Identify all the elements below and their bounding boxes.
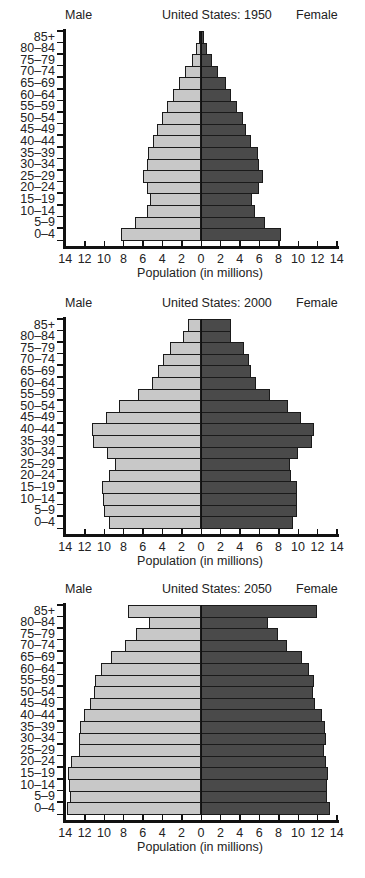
y-tick <box>57 528 64 530</box>
y-tick <box>57 100 64 102</box>
x-tick-label: 14 <box>55 826 75 840</box>
x-tick <box>298 241 300 246</box>
male-bar <box>109 516 201 529</box>
chart-title: United States: 1950 <box>162 8 272 22</box>
x-tick <box>317 815 319 820</box>
y-tick <box>57 457 64 459</box>
x-tick-label: 6 <box>249 540 269 554</box>
y-tick <box>57 801 64 803</box>
age-group-label: 0–4 <box>34 516 55 528</box>
y-tick <box>57 341 64 343</box>
y-tick <box>57 604 64 606</box>
x-tick <box>201 529 203 534</box>
y-tick <box>57 240 64 242</box>
y-tick <box>57 181 64 183</box>
x-tick <box>239 815 241 820</box>
x-axis <box>63 534 339 537</box>
pyramid-chart-2000: MaleUnited States: 2000Female85+80–8475–… <box>0 296 365 586</box>
male-bar <box>121 228 201 241</box>
x-tick-label: 10 <box>94 540 114 554</box>
x-tick <box>142 241 144 246</box>
x-tick-label: 0 <box>191 826 211 840</box>
y-tick <box>57 732 64 734</box>
x-tick-label: 4 <box>230 252 250 266</box>
x-tick <box>298 815 300 820</box>
x-tick <box>162 241 164 246</box>
x-tick <box>220 241 222 246</box>
y-tick <box>57 708 64 710</box>
y-tick <box>57 376 64 378</box>
x-tick <box>84 241 86 246</box>
y-tick <box>57 755 64 757</box>
y-tick <box>57 778 64 780</box>
x-tick <box>259 529 261 534</box>
x-tick-label: 4 <box>152 252 172 266</box>
x-tick-label: 14 <box>327 826 347 840</box>
y-tick <box>57 434 64 436</box>
y-tick <box>57 697 64 699</box>
x-tick <box>317 529 319 534</box>
x-tick-label: 0 <box>191 252 211 266</box>
x-tick-label: 2 <box>210 826 230 840</box>
x-tick <box>104 529 106 534</box>
y-tick <box>57 318 64 320</box>
x-tick <box>162 529 164 534</box>
x-axis <box>63 246 339 249</box>
x-tick <box>65 815 67 820</box>
x-tick-label: 8 <box>269 252 289 266</box>
pyramid-chart-1950: MaleUnited States: 1950Female85+80–8475–… <box>0 8 365 298</box>
x-tick <box>104 241 106 246</box>
x-tick-label: 2 <box>172 540 192 554</box>
x-tick-label: 10 <box>94 826 114 840</box>
x-tick-label: 10 <box>288 540 308 554</box>
x-tick-label: 6 <box>133 826 153 840</box>
x-tick <box>65 241 67 246</box>
male-label: Male <box>65 8 92 22</box>
x-tick <box>259 241 261 246</box>
x-tick-label: 4 <box>152 826 172 840</box>
age-group-label: 0–4 <box>34 228 55 240</box>
y-tick <box>57 330 64 332</box>
y-tick <box>57 469 64 471</box>
x-tick <box>278 529 280 534</box>
x-tick <box>162 815 164 820</box>
x-tick <box>220 529 222 534</box>
y-tick <box>57 111 64 113</box>
female-label: Female <box>296 582 338 596</box>
x-tick-label: 2 <box>210 252 230 266</box>
y-tick <box>57 422 64 424</box>
x-tick-label: 6 <box>133 540 153 554</box>
x-tick <box>298 529 300 534</box>
y-tick <box>57 650 64 652</box>
x-tick <box>278 241 280 246</box>
x-tick <box>201 241 203 246</box>
x-tick <box>84 815 86 820</box>
x-tick <box>181 241 183 246</box>
x-tick-label: 8 <box>113 252 133 266</box>
x-tick-label: 14 <box>327 540 347 554</box>
x-tick-label: 14 <box>327 252 347 266</box>
x-tick-label: 6 <box>249 252 269 266</box>
y-tick <box>57 76 64 78</box>
y-tick <box>57 88 64 90</box>
x-tick <box>65 529 67 534</box>
y-tick <box>57 480 64 482</box>
x-axis <box>63 820 339 823</box>
y-tick <box>57 65 64 67</box>
x-tick <box>201 815 203 820</box>
x-tick-label: 8 <box>113 540 133 554</box>
x-tick-label: 12 <box>75 540 95 554</box>
y-tick <box>57 134 64 136</box>
y-tick <box>57 504 64 506</box>
y-tick <box>57 216 64 218</box>
x-tick <box>278 815 280 820</box>
x-tick <box>142 815 144 820</box>
x-tick-label: 8 <box>113 826 133 840</box>
female-label: Female <box>296 8 338 22</box>
y-tick <box>57 790 64 792</box>
x-tick <box>220 815 222 820</box>
x-tick <box>123 529 125 534</box>
x-tick-label: 4 <box>230 826 250 840</box>
female-bar <box>201 228 281 241</box>
x-tick-label: 8 <box>269 826 289 840</box>
